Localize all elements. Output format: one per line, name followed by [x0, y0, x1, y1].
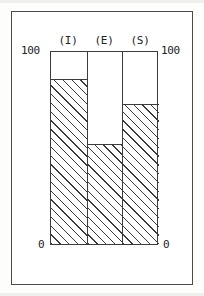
- figure-canvas: (I) (E) (S) 100 100 0 0: [0, 0, 204, 296]
- bar-fill-s: [123, 104, 159, 244]
- bar-fill-e: [88, 144, 122, 244]
- y-axis-max-label-right: 100: [161, 45, 180, 57]
- column-caption-s: (S): [122, 33, 158, 48]
- bar-column-e: [87, 52, 123, 244]
- column-caption-e: (E): [86, 33, 122, 48]
- y-axis-min-label-left: 0: [38, 239, 44, 251]
- y-axis-max-label-left: 100: [21, 45, 40, 57]
- bar-column-i: [51, 52, 87, 244]
- bar-fill-i: [51, 79, 87, 244]
- column-caption-row: (I) (E) (S): [50, 33, 158, 48]
- scan-artifact-top: [0, 0, 204, 3]
- column-caption-i: (I): [50, 33, 86, 48]
- plot-area: [50, 51, 158, 245]
- y-axis-min-label-right: 0: [163, 239, 169, 251]
- bar-column-s: [123, 52, 159, 244]
